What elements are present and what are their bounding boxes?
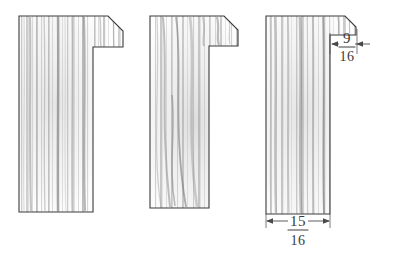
overall-dim-numerator: 15 [290,213,306,229]
rabbet-dim-arrow-left [331,41,338,46]
overall-width-dimension: 15 16 [266,213,330,248]
profile-left [19,16,123,212]
rabbet-dim-denominator: 16 [340,49,355,64]
profile-left-shading [19,16,123,212]
overall-dim-denominator: 16 [291,233,306,248]
overall-dim-arrow-right [323,218,330,223]
overall-dim-arrow-left [266,218,273,223]
drawing-canvas: 9 16 15 16 [0,0,396,254]
profile-middle [150,16,238,208]
profile-middle-shading [150,16,238,208]
rabbet-dim-numerator: 9 [343,30,351,46]
